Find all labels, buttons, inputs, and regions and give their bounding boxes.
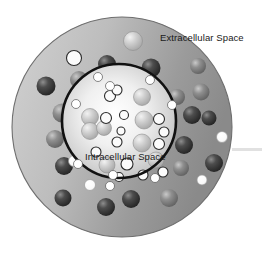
extracellular-particle-dark [183, 106, 201, 124]
membrane-channel-protein [146, 76, 155, 85]
intracellular-particle-light [82, 123, 99, 140]
extracellular-particle-outline [67, 51, 82, 66]
extracellular-particle-mid [193, 84, 210, 101]
extracellular-particle-dark [205, 154, 223, 172]
extracellular-particle-dark [55, 190, 72, 207]
extracellular-particle-white [85, 180, 96, 191]
extracellular-particle-dark [37, 77, 56, 96]
membrane-channel-protein [74, 160, 83, 169]
intracellular-particle-outline [158, 167, 168, 177]
membrane-channel-protein [151, 174, 160, 183]
membrane-channel-protein [168, 101, 177, 110]
extracellular-particle-mid [46, 130, 64, 148]
membrane-channel-protein [109, 171, 118, 180]
intracellular-particle-outline [112, 137, 122, 147]
extracellular-particle-dark [202, 111, 217, 126]
extracellular-particle-white [197, 175, 207, 185]
cell-diagram-canvas: Extracellular Space Intracellular Space [0, 0, 262, 269]
membrane-channel-protein [72, 100, 81, 109]
extracellular-particle-light [124, 32, 143, 51]
extracellular-particle-white [217, 132, 228, 143]
scan-artifact-streak [232, 148, 262, 151]
intracellular-particle-light [134, 89, 151, 106]
membrane-channel-protein [94, 73, 103, 82]
intracellular-particle-outline [154, 114, 165, 125]
intracellular-particle-outline [159, 127, 169, 137]
intracellular-particle-light [135, 111, 153, 129]
extracellular-particle-dark [122, 190, 140, 208]
cell-diagram: Extracellular Space Intracellular Space [0, 0, 262, 269]
extracellular-particle-dark [175, 136, 193, 154]
intracellular-space-label: Intracellular Space [85, 151, 166, 162]
extracellular-particle-mid [160, 189, 178, 207]
extracellular-particle-mid [173, 160, 189, 176]
intracellular-particle-outline [117, 127, 125, 135]
intracellular-particle-outline [154, 139, 165, 150]
intracellular-particle-outline [101, 113, 112, 124]
membrane-channel-protein [106, 82, 115, 91]
extracellular-particle-dark [97, 198, 115, 216]
extracellular-particle-mid [190, 58, 206, 74]
extracellular-space-label: Extracellular Space [160, 32, 244, 43]
membrane-channel-protein [106, 182, 115, 191]
intracellular-particle-light [133, 134, 151, 152]
intracellular-particle-outline [120, 111, 129, 120]
